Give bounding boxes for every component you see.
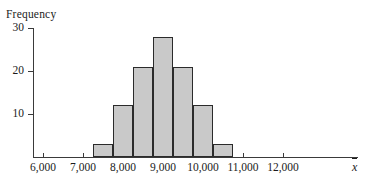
- histogram-bar: [133, 67, 153, 157]
- histogram-bar: [113, 105, 133, 157]
- x-axis-variable-label: x: [352, 160, 357, 175]
- x-bar-symbol: x: [352, 160, 357, 175]
- histogram-bars: [0, 0, 382, 186]
- histogram-bar: [213, 144, 233, 157]
- histogram-bar: [153, 37, 173, 157]
- histogram-bar: [173, 67, 193, 157]
- histogram-bar: [193, 105, 213, 157]
- histogram-bar: [93, 144, 113, 157]
- histogram-figure: Frequency 302010 6,0007,0008,0009,00010,…: [0, 0, 382, 186]
